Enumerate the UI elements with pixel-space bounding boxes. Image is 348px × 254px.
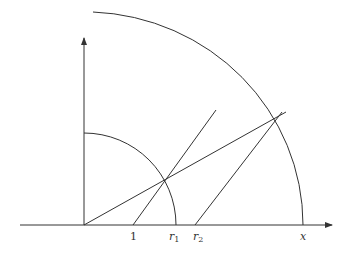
label-r2: r2	[193, 230, 203, 244]
label-r1: r1	[169, 230, 179, 244]
outer-arc	[93, 12, 303, 225]
label-x: x	[300, 230, 307, 243]
unit-arc	[84, 133, 176, 225]
label-one: 1	[130, 230, 137, 243]
line-from-r2	[195, 112, 282, 225]
ray-from-origin	[84, 112, 286, 225]
construction-diagram: 1 r1 r2 x	[0, 0, 348, 254]
